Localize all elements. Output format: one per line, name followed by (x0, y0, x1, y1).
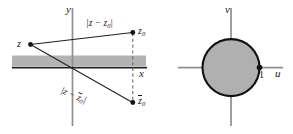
right-panel-graphics (178, 8, 283, 126)
distance-upper-close: | (110, 18, 113, 28)
point-label-z: z (17, 39, 21, 49)
segment-z-to-z0 (31, 33, 133, 45)
axis-label-x: x (139, 68, 144, 79)
point-label-one: 1 (259, 70, 264, 80)
axis-label-v: v (225, 4, 230, 15)
point-marker-z0bar (130, 100, 135, 105)
point-marker-z0 (130, 30, 135, 35)
point-label-z0bar: z0 (138, 96, 145, 106)
axis-label-y: y (66, 4, 71, 15)
distance-upper-sub: 0 (107, 22, 110, 29)
shaded-unit-disk (203, 39, 260, 96)
figure-container: y x z z0 z0 |z − z0| |z − z0| v u 1 (0, 0, 293, 134)
point-marker-z (28, 42, 33, 47)
point-label-z0: z0 (138, 26, 145, 36)
distance-upper-expr: z − z (89, 18, 108, 28)
left-panel-graphics (12, 8, 147, 126)
shaded-strip (12, 56, 146, 67)
figure-graphics (0, 0, 293, 134)
axis-label-u: u (275, 68, 281, 79)
point-label-z0bar-sub: 0 (142, 100, 145, 107)
distance-label-upper: |z − z0| (86, 19, 113, 29)
point-label-z0-sub: 0 (142, 30, 145, 37)
